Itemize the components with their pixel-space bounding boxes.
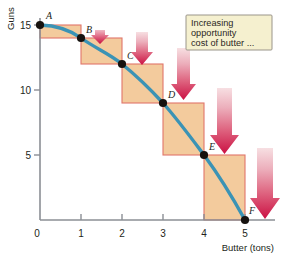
x-tick-label-2: 2 [119,228,125,239]
data-point-e [200,151,208,159]
x-tick-label-0: 0 [34,228,40,239]
point-label-e: E [208,141,215,152]
x-axis-title: Butter (tons) [222,242,274,253]
point-label-c: C [127,50,134,61]
point-label-a: A [45,10,53,21]
callout-annotation: Increasing opportunity cost of butter ..… [186,15,272,50]
point-label-d: D [167,89,176,100]
data-point-d [159,99,167,107]
x-tick-label-3: 3 [160,228,166,239]
y-axis-title: Guns [5,7,16,30]
x-tick-label-1: 1 [78,228,84,239]
point-label-f: F [248,205,256,216]
point-label-b: B [86,24,92,35]
data-point-a [36,21,44,29]
cost-arrow-2 [131,32,153,65]
callout-line-3: cost of butter ... [191,38,254,48]
data-point-f [241,216,249,224]
chart-canvas: 15 10 5 0 1 2 3 4 5 Guns Butter (tons) A [0,0,287,262]
data-point-b [77,34,85,42]
x-tick-label-5: 5 [242,228,248,239]
data-point-c [118,60,126,68]
ppf-chart-figure: 15 10 5 0 1 2 3 4 5 Guns Butter (tons) A [0,0,287,262]
y-tick-label-15: 15 [20,20,32,31]
y-tick-label-5: 5 [25,150,31,161]
y-tick-label-10: 10 [20,85,32,96]
x-tick-label-4: 4 [201,228,207,239]
callout-line-2: opportunity [191,28,237,38]
callout-line-1: Increasing [191,18,233,28]
